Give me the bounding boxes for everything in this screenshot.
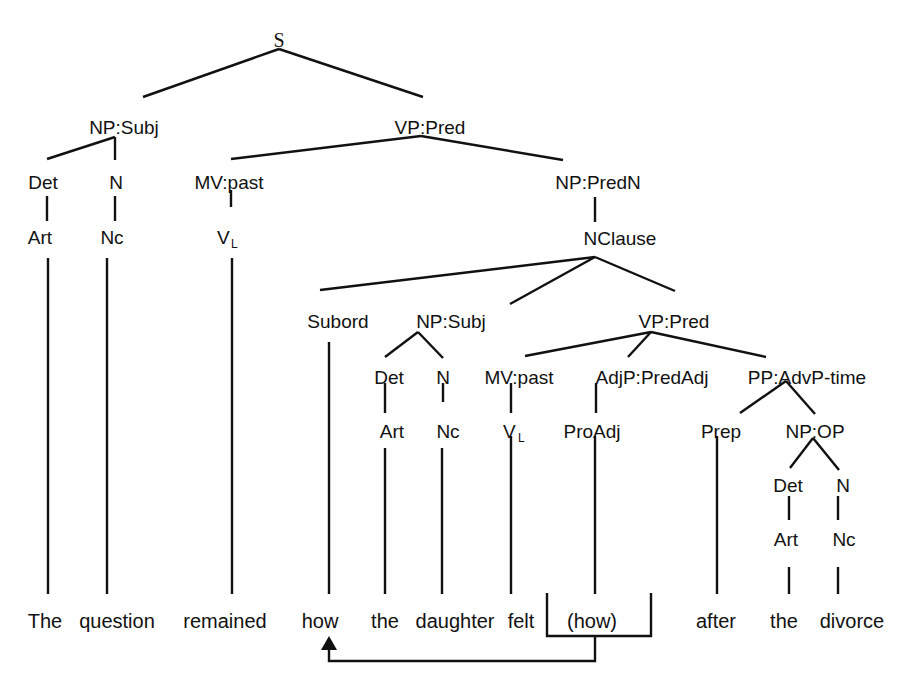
node-vl-1-main: V [217, 227, 230, 248]
branch-vppred-mv [231, 136, 421, 159]
node-mv-past-1: MV:past [195, 172, 265, 193]
branch-nclause-npsubj [510, 257, 595, 304]
node-prep: Prep [701, 421, 741, 442]
word-remained: remained [183, 610, 266, 632]
movement-path [329, 636, 595, 661]
node-vl-2-subscript: L [518, 431, 525, 445]
word-the-2: the [371, 610, 399, 632]
node-art-2: Art [380, 421, 405, 442]
word-question: question [79, 610, 155, 632]
node-det-1: Det [28, 172, 58, 193]
node-adjp-predadj: AdjP:PredAdj [595, 367, 708, 388]
branch-vppred-nppredn [421, 136, 563, 160]
word-after: after [696, 610, 736, 632]
branch-npsubj2-det [385, 332, 418, 357]
node-vl-1: V L [217, 227, 238, 251]
word-daughter: daughter [416, 610, 495, 632]
word-the-3: the [770, 610, 798, 632]
branch-nclause-subord [320, 257, 595, 290]
node-art-3: Art [774, 529, 799, 550]
node-np-op: NP:OP [785, 421, 844, 442]
arrowhead-icon [321, 636, 337, 650]
node-nclause: NClause [584, 228, 657, 249]
node-np-subj: NP:Subj [89, 117, 159, 138]
node-vl-2: V L [503, 421, 525, 445]
node-vp-pred: VP:Pred [395, 117, 466, 138]
word-the: The [28, 610, 62, 632]
node-nc-2: Nc [436, 421, 459, 442]
node-nc-3: Nc [832, 529, 855, 550]
word-how: how [302, 610, 339, 632]
node-det-2: Det [374, 367, 404, 388]
node-art-1: Art [28, 227, 53, 248]
branch-s-vppred [279, 49, 423, 97]
node-mv-past-2: MV:past [485, 367, 555, 388]
node-nc-1: Nc [100, 227, 123, 248]
node-n-3: N [836, 475, 850, 496]
sentence-words: The question remained how the daughter f… [28, 610, 884, 632]
node-proadj: ProAdj [563, 421, 620, 442]
node-vl-1-subscript: L [231, 237, 238, 251]
branch-npsubj-det [47, 137, 115, 159]
node-det-3: Det [773, 475, 803, 496]
node-labels: S NP:Subj VP:Pred Det N MV:past NP:PredN… [28, 29, 866, 550]
node-pp-advp-time: PP:AdvP-time [748, 367, 866, 388]
node-np-subj-2: NP:Subj [416, 311, 486, 332]
word-divorce: divorce [820, 610, 884, 632]
node-vp-pred-2: VP:Pred [639, 311, 710, 332]
word-how-trace: (how) [567, 610, 617, 632]
node-vl-2-main: V [503, 421, 516, 442]
branch-npsubj2-n [418, 332, 443, 358]
node-n-1: N [109, 172, 123, 193]
branch-npop-n [813, 438, 839, 470]
branch-nclause-vppred [595, 257, 675, 291]
node-np-predn: NP:PredN [555, 172, 641, 193]
branch-vppred2-pp [651, 332, 766, 357]
word-felt: felt [508, 610, 535, 632]
branch-npop-det [790, 438, 813, 468]
syntax-tree-diagram: S NP:Subj VP:Pred Det N MV:past NP:PredN… [0, 0, 901, 689]
node-s: S [273, 29, 284, 51]
branch-s-npsubj [143, 49, 279, 97]
node-subord: Subord [307, 311, 368, 332]
node-n-2: N [436, 367, 450, 388]
